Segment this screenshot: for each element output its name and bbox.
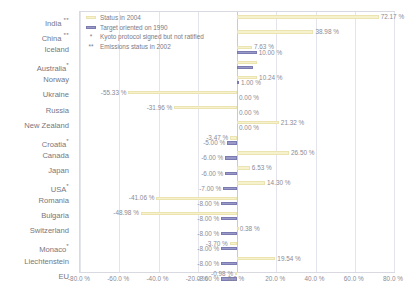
x-tick-label: 60.0 %: [344, 275, 364, 282]
legend-label: Emissions status in 2002: [100, 42, 171, 52]
table-row: 0.38 %-8.00 %: [80, 224, 394, 239]
x-tick-label: 0.0 %: [228, 275, 244, 282]
double-star-icon: **: [86, 44, 96, 50]
status-value-label: 26.50 %: [291, 150, 314, 156]
status-bar: [230, 242, 237, 245]
status-bar: [237, 15, 379, 18]
category-label: Ukraine: [0, 87, 74, 102]
status-value-label: -48.98 %: [113, 210, 139, 216]
x-tick-label: 40.0 %: [305, 275, 325, 282]
table-row: 19.54 %-8.00 %: [80, 255, 394, 270]
gridline: [394, 12, 395, 272]
status-bar: [237, 227, 239, 230]
table-row: [80, 58, 394, 73]
status-value-label: 6.53 %: [252, 165, 272, 171]
x-axis: -80.0 %-60.0 %-40.0 %-20.0 %0.0 %20.0 %4…: [79, 275, 395, 287]
category-label: New Zealand: [0, 118, 74, 133]
table-row: -55.33 %0.00 %: [80, 88, 394, 103]
table-row: -3.47 %-5.00 %: [80, 134, 394, 149]
table-row: -41.06 %-8.00 %: [80, 194, 394, 209]
status-value-label: 19.54 %: [277, 256, 300, 262]
target-bar: [221, 217, 237, 220]
table-row: 14.30 %-7.00 %: [80, 179, 394, 194]
table-row: -31.96 %0.00 %: [80, 104, 394, 119]
status-value-label: 10.24 %: [259, 75, 282, 81]
status-bar: [230, 136, 237, 139]
status-bar: [237, 257, 275, 260]
status-value-label: 21.32 %: [281, 120, 304, 126]
target-bar: [237, 51, 257, 54]
legend-item: *Kyoto protocol signed but not ratified: [86, 32, 204, 42]
target-value-label: -8.00 %: [197, 201, 219, 207]
target-bar: [225, 156, 237, 159]
category-axis: India **China **IcelandAustralia*NorwayU…: [0, 12, 74, 284]
x-tick-label: -80.0 %: [68, 275, 90, 282]
target-bar: [223, 187, 237, 190]
category-label: Russia: [0, 103, 74, 118]
target-bar: [237, 66, 253, 69]
status-bar: [237, 46, 252, 49]
target-value-label: -8.00 %: [197, 216, 219, 222]
category-label: Japan: [0, 163, 74, 178]
bar-rows: 72.17 %38.98 %7.63 %10.00 %10.24 %1.00 %…: [80, 13, 394, 272]
category-label: Monaco*: [0, 238, 74, 253]
status-value-label: -31.96 %: [147, 105, 173, 111]
legend-item: **Emissions status in 2002: [86, 42, 204, 52]
status-value-label: 14.30 %: [267, 180, 290, 186]
target-bar: [227, 141, 237, 144]
target-value-label: 0.00 %: [239, 95, 259, 101]
x-tick-label: -40.0 %: [146, 275, 168, 282]
target-bar: [221, 262, 237, 265]
category-label: China **: [0, 27, 74, 42]
category-label: Australia*: [0, 57, 74, 72]
status-bar: [174, 106, 237, 109]
single-star-icon: *: [86, 34, 96, 40]
x-tick-label: -60.0 %: [107, 275, 129, 282]
category-label: Iceland: [0, 42, 74, 57]
target-value-label: -8.00 %: [197, 246, 219, 252]
status-swatch-icon: [86, 16, 96, 19]
emissions-bar-chart: India **China **IcelandAustralia*NorwayU…: [0, 0, 409, 305]
target-value-label: -8.00 %: [197, 231, 219, 237]
legend-item: Target oriented on 1990: [86, 23, 204, 33]
category-label: Canada: [0, 148, 74, 163]
target-value-label: 10.00 %: [259, 50, 282, 56]
category-label: Norway: [0, 72, 74, 87]
target-value-label: -6.00 %: [201, 155, 223, 161]
category-label: Switzerland: [0, 223, 74, 238]
status-value-label: -55.33 %: [101, 90, 127, 96]
x-tick-label: -20.0 %: [186, 275, 208, 282]
target-value-label: 1.00 %: [241, 80, 261, 86]
status-value-label: 0.38 %: [240, 226, 260, 232]
x-tick-label: 20.0 %: [265, 275, 285, 282]
target-value-label: -6.00 %: [201, 171, 223, 177]
status-value-label: 72.17 %: [381, 14, 404, 20]
status-bar: [237, 30, 313, 33]
legend-label: Status in 2004: [100, 13, 141, 23]
table-row: 26.50 %-6.00 %: [80, 149, 394, 164]
target-bar: [225, 172, 237, 175]
target-value-label: -7.00 %: [199, 186, 221, 192]
status-value-label: 38.98 %: [315, 29, 338, 35]
category-label: Croatia*: [0, 133, 74, 148]
status-bar: [128, 91, 237, 94]
target-swatch-icon: [86, 26, 96, 29]
status-bar: [141, 212, 237, 215]
target-value-label: -5.00 %: [203, 140, 225, 146]
legend-label: Kyoto protocol signed but not ratified: [100, 32, 204, 42]
legend-item: Status in 2004: [86, 13, 204, 23]
table-row: -3.70 %-8.00 %: [80, 239, 394, 254]
legend: Status in 2004Target oriented on 1990*Ky…: [86, 13, 204, 51]
target-bar: [221, 232, 237, 235]
category-label: EU: [0, 269, 74, 284]
target-bar: [221, 202, 237, 205]
target-value-label: -8.00 %: [197, 261, 219, 267]
target-value-label: 0.00 %: [239, 125, 259, 131]
status-bar: [237, 166, 250, 169]
category-label: India **: [0, 12, 74, 27]
category-label: Bulgaria: [0, 208, 74, 223]
table-row: -48.98 %-8.00 %: [80, 209, 394, 224]
category-label: Liechtenstein: [0, 254, 74, 269]
table-row: 6.53 %-6.00 %: [80, 164, 394, 179]
x-tick-label: 80.0 %: [383, 275, 403, 282]
